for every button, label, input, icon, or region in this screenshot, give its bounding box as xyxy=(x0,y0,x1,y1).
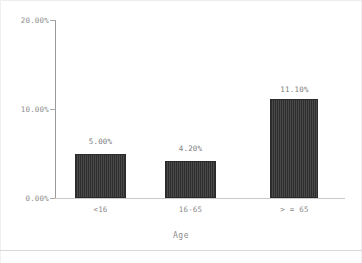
frame-bottom-rule xyxy=(0,250,362,251)
x-axis-title: Age xyxy=(0,231,362,240)
x-axis-category-under-16: <16 xyxy=(75,205,126,214)
y-axis-label-20: 20.00% xyxy=(0,16,49,25)
bar-chart: 20.00% 10.00% 0.00% 5.00% 4.20% 11.10% <… xyxy=(0,0,362,263)
frame-top-border xyxy=(0,0,362,1)
bar-over-65[interactable] xyxy=(270,99,318,198)
bar-value-label-over-65: 11.10% xyxy=(268,85,321,94)
bar-value-label-16-65: 4.20% xyxy=(165,144,216,153)
x-axis-line xyxy=(55,198,345,199)
bar-under-16[interactable] xyxy=(75,154,126,199)
frame-left-border xyxy=(0,0,1,263)
y-axis-label-10: 10.00% xyxy=(0,105,49,114)
y-axis-label-0: 0.00% xyxy=(0,194,49,203)
bar-16-65[interactable] xyxy=(165,161,216,198)
x-axis-category-over-65: > = 65 xyxy=(268,205,321,214)
plot-area xyxy=(55,20,345,198)
bar-value-label-under-16: 5.00% xyxy=(75,137,126,146)
x-axis-category-16-65: 16-65 xyxy=(165,205,216,214)
